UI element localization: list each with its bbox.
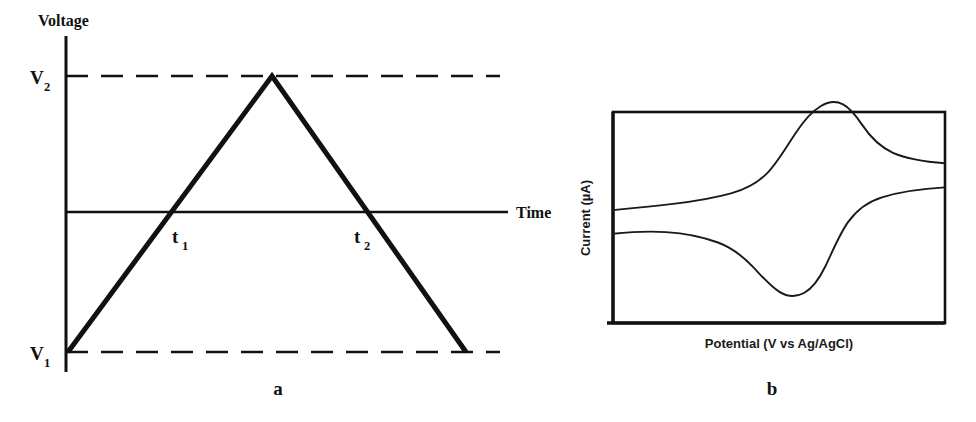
t2-marker-label-base: t [354, 226, 361, 247]
figure-root: Voltage Time V 2 V 1 t 1 t 2 [0, 0, 976, 422]
panel-b-caption: b [752, 378, 792, 400]
t2-marker-label: t 2 [354, 226, 370, 253]
t1-marker-label-base: t [172, 226, 179, 247]
panel-a-caption: a [258, 378, 298, 400]
panel-b-cyclic-voltammogram: Current (µA) Potential (V vs Ag/AgCl) [560, 0, 976, 422]
cv-x-axis-label: Potential (V vs Ag/AgCl) [705, 336, 853, 351]
v1-tick-label-base: V [30, 343, 44, 364]
t1-marker-label-subscript: 1 [182, 239, 188, 253]
v1-tick-label: V 1 [30, 343, 50, 370]
v2-tick-label: V 2 [30, 67, 50, 94]
panel-a-triangular-waveform: Voltage Time V 2 V 1 t 1 t 2 [0, 0, 560, 422]
v1-tick-label-subscript: 1 [44, 356, 50, 370]
v2-tick-label-subscript: 2 [44, 80, 50, 94]
triangular-waveform-trace [68, 76, 466, 352]
t1-marker-label: t 1 [172, 226, 188, 253]
t2-marker-label-subscript: 2 [364, 239, 370, 253]
cv-reverse-cathodic-scan-trace [613, 187, 945, 295]
cv-y-axis-label: Current (µA) [578, 180, 593, 256]
time-axis-label: Time [516, 204, 551, 221]
v2-tick-label-base: V [30, 67, 44, 88]
panel-a-plot: Voltage Time V 2 V 1 t 1 t 2 [0, 0, 560, 422]
panel-b-plot: Current (µA) Potential (V vs Ag/AgCl) [560, 0, 976, 422]
voltage-axis-label: Voltage [38, 12, 89, 30]
